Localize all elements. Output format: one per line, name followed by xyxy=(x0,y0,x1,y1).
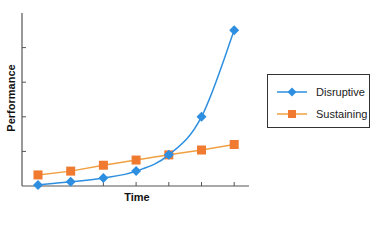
legend-item-disruptive: Disruptive xyxy=(268,84,369,100)
y-axis-label: Performance xyxy=(5,63,17,133)
chart-series xyxy=(33,25,239,190)
x-axis-label: Time xyxy=(117,191,157,203)
diamond-marker-icon xyxy=(277,86,307,98)
chart-legend: Disruptive Sustaining xyxy=(267,74,370,128)
legend-label: Sustaining xyxy=(316,107,367,121)
square-marker-icon xyxy=(277,108,307,120)
legend-item-sustaining: Sustaining xyxy=(268,106,369,122)
legend-label: Disruptive xyxy=(316,85,365,99)
